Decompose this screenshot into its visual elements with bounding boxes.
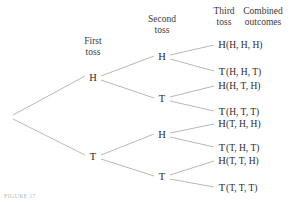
outcome-hhh: (H, H, H) bbox=[226, 40, 262, 50]
outcome-hth: (H, T, H) bbox=[226, 81, 260, 91]
header-line-1: Combined bbox=[223, 6, 296, 17]
header-line-2: outcomes bbox=[223, 17, 296, 28]
edge-hh-hhh bbox=[170, 45, 214, 55]
edge-h-ht bbox=[101, 80, 154, 98]
edge-tt-ttt bbox=[170, 179, 214, 187]
header-line-1: First bbox=[53, 36, 133, 47]
header-combined-outcomes: Combinedoutcomes bbox=[223, 6, 296, 27]
node-t: T bbox=[86, 151, 100, 162]
node-h-t: T bbox=[155, 93, 169, 104]
header-line-2: toss bbox=[53, 47, 133, 58]
node-t-t: T bbox=[155, 171, 169, 182]
edge-tt-tth bbox=[170, 161, 214, 175]
outcome-thh: (T, H, H) bbox=[226, 119, 261, 129]
header-first-toss: Firsttoss bbox=[53, 36, 133, 57]
coin-toss-tree-figure: FirsttossSecondtossThirdtossCombinedoutc… bbox=[0, 0, 296, 202]
outcome-tth: (T, T, H) bbox=[226, 156, 259, 166]
outcome-htt: (H, T, T) bbox=[226, 107, 259, 117]
edge-th-tht bbox=[170, 137, 214, 147]
edge-ht-htt bbox=[170, 101, 214, 111]
edge-h-hh bbox=[101, 56, 154, 76]
outcome-ttt: (T, T, T) bbox=[226, 183, 257, 193]
edge-root-h bbox=[13, 76, 85, 115]
edge-hh-hht bbox=[170, 59, 214, 71]
node-h: H bbox=[86, 72, 100, 83]
edge-root-t bbox=[13, 119, 85, 155]
outcome-tht: (T, H, T) bbox=[226, 143, 259, 153]
caption-fragment: FIGURE 17 bbox=[4, 193, 56, 199]
edge-th-thh bbox=[170, 124, 214, 133]
node-h-h: H bbox=[155, 51, 169, 62]
node-t-h: H bbox=[155, 129, 169, 140]
edge-ht-hth bbox=[170, 86, 214, 97]
outcome-hht: (H, H, T) bbox=[226, 67, 261, 77]
edge-t-tt bbox=[101, 159, 154, 176]
edge-t-th bbox=[101, 134, 154, 155]
